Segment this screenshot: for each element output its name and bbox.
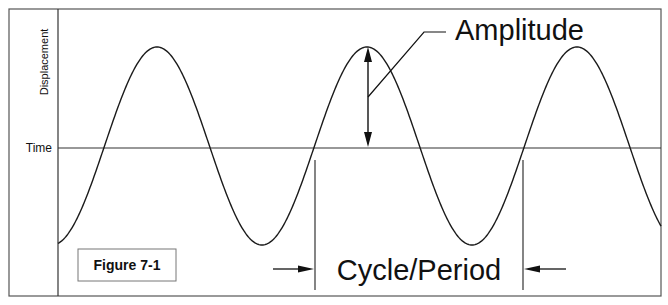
period-label: Cycle/Period <box>337 254 501 286</box>
y-axis-label: Displacement <box>38 29 50 96</box>
amplitude-label: Amplitude <box>455 14 584 46</box>
sine-wave-diagram: Amplitude Cycle/Period Displacement Time… <box>0 0 668 305</box>
x-axis-label: Time <box>26 141 53 155</box>
figure-label: Figure 7-1 <box>94 257 161 273</box>
